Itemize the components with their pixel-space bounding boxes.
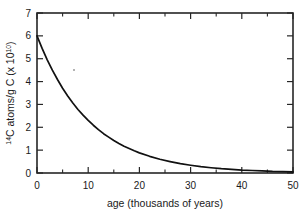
svg-text:14C atoms/g C (x 1010): 14C atoms/g C (x 1010) [4, 41, 16, 144]
chart-figure: 01234567 01020304050 age (thousands of y… [0, 0, 307, 218]
decay-curve-series [37, 36, 293, 172]
y-ticklabel-0: 0 [25, 168, 31, 179]
x-axis-ticklabels: 01020304050 [34, 180, 299, 191]
x-ticklabel-50: 50 [287, 180, 299, 191]
y-axis-label-main: C atoms/g C (x 10 [4, 52, 16, 137]
y-ticklabel-2: 2 [25, 122, 31, 133]
y-axis-label: 14C atoms/g C (x 1010) [4, 41, 16, 144]
y-ticklabel-6: 6 [25, 30, 31, 41]
image-speck [73, 69, 75, 71]
x-ticklabel-0: 0 [34, 180, 40, 191]
y-ticklabel-3: 3 [25, 99, 31, 110]
plot-frame [37, 13, 293, 173]
x-ticklabel-20: 20 [134, 180, 146, 191]
x-axis-ticks [37, 13, 293, 173]
y-ticklabel-4: 4 [25, 76, 31, 87]
x-ticklabel-30: 30 [185, 180, 197, 191]
right-axis-ticks [287, 13, 293, 173]
y-axis-ticklabels: 01234567 [25, 8, 31, 179]
y-ticklabel-1: 1 [25, 145, 31, 156]
x-ticklabel-40: 40 [236, 180, 248, 191]
chart-svg: 01234567 01020304050 age (thousands of y… [0, 0, 307, 218]
y-axis-label-close: ) [4, 41, 16, 45]
x-ticklabel-10: 10 [83, 180, 95, 191]
y-ticklabel-5: 5 [25, 53, 31, 64]
y-ticklabel-7: 7 [25, 8, 31, 19]
x-axis-label: age (thousands of years) [107, 197, 223, 209]
